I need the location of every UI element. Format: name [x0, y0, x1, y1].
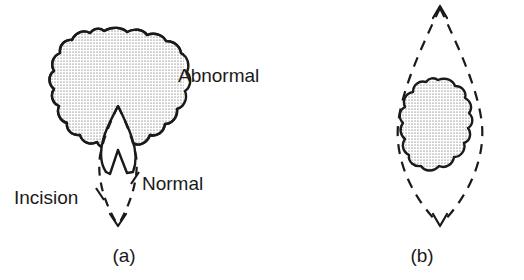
figure-canvas: Abnormal Incision Normal (a) (b)	[0, 0, 524, 280]
normal-leader-line	[131, 172, 139, 184]
label-incision: Incision	[14, 187, 78, 208]
panel-caption-a: (a)	[112, 245, 135, 266]
lesion-shape	[400, 78, 472, 170]
panel-caption-b: (b)	[410, 245, 433, 266]
figure-root: Abnormal Incision Normal (a) (b)	[0, 0, 524, 280]
label-abnormal: Abnormal	[178, 65, 259, 86]
lens-bottom-tip-chevron	[433, 214, 447, 226]
incision-apex-chevron	[110, 214, 126, 226]
panel-b: (b)	[398, 6, 483, 266]
label-normal: Normal	[142, 173, 203, 194]
lens-top-tip-chevron	[433, 6, 447, 18]
panel-a: Abnormal Incision Normal (a)	[14, 28, 259, 266]
